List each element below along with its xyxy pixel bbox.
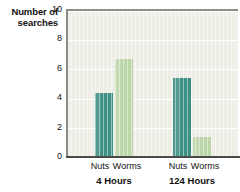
- bar-124hours-nuts: [173, 78, 191, 157]
- y-tick-label-4: 4: [40, 93, 62, 102]
- y-tick-label-6: 6: [40, 64, 62, 73]
- y-axis-title-line2: searches: [0, 17, 58, 28]
- plot-area: [66, 9, 238, 157]
- gridline-8: [68, 40, 238, 41]
- bar-124hours-worms: [193, 137, 211, 157]
- group-label-124hours: 124 Hours: [156, 176, 228, 186]
- gridline-6: [68, 69, 238, 70]
- gridline-2: [68, 128, 238, 129]
- bar-4hours-nuts: [95, 93, 113, 157]
- bar-4hours-worms: [115, 59, 133, 157]
- y-tick-label-10: 10: [40, 5, 62, 14]
- bar-chart: Number of searches 10 8 6 4 2 0 Nuts Wor: [0, 0, 240, 192]
- x-axis-line: [66, 156, 240, 158]
- bar-sheen: [193, 137, 199, 157]
- x-label-4hours-worms: Worms: [103, 161, 151, 171]
- bar-sheen: [173, 78, 179, 157]
- gridline-4: [68, 99, 238, 100]
- bar-sheen: [95, 93, 101, 157]
- y-tick-label-0: 0: [40, 152, 62, 161]
- x-label-124hours-worms: Worms: [181, 161, 229, 171]
- plot-inner: [68, 11, 238, 157]
- paper-texture: [68, 11, 238, 157]
- y-tick-label-8: 8: [40, 34, 62, 43]
- y-tick-label-2: 2: [40, 123, 62, 132]
- group-label-4hours: 4 Hours: [78, 176, 150, 186]
- gridline-10: [68, 11, 238, 12]
- bar-sheen: [115, 59, 121, 157]
